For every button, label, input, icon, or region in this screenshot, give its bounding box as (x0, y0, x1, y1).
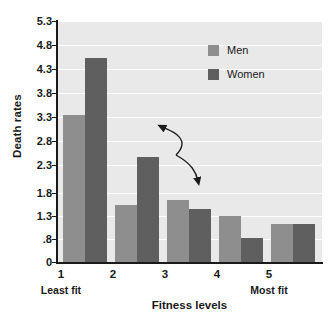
bar-group (113, 157, 161, 262)
plot-area (57, 21, 322, 262)
bar-women (137, 157, 159, 262)
bar-men (271, 224, 293, 262)
legend-item-women: Women (208, 68, 265, 80)
y-tick-label: 2.8 (14, 136, 52, 146)
bar-group (217, 216, 265, 262)
y-tick-label: 4.3 (14, 64, 52, 74)
y-tick-label: 3.8 (14, 88, 52, 98)
y-tick-label: 4.8 (14, 40, 52, 50)
x-tick-label: 5 (239, 268, 299, 280)
legend-item-men: Men (208, 44, 265, 56)
y-tick-label: 5.3 (14, 16, 52, 26)
bar-group (61, 58, 109, 262)
x-axis-note-least-fit: Least fit (21, 284, 101, 296)
bar-men (115, 205, 137, 262)
legend-label: Men (227, 44, 248, 56)
bar-group (269, 224, 317, 262)
gridline (57, 45, 322, 46)
x-axis-note-most-fit: Most fit (229, 284, 309, 296)
bar-women (189, 209, 211, 262)
bar-men (167, 200, 189, 262)
x-tick-label: 4 (187, 268, 247, 280)
bar-women (85, 58, 107, 262)
y-tick-label: .8 (14, 234, 52, 244)
legend-swatch-icon (208, 45, 219, 56)
x-tick-label: 3 (135, 268, 195, 280)
x-axis-title: Fitness levels (57, 299, 322, 311)
legend-swatch-icon (208, 69, 219, 80)
bar-chart: Death rates 5.3 4.8 4.3 3.8 3.3 2.8 2.3 … (0, 0, 333, 317)
bar-men (63, 115, 85, 262)
y-tick-label: 3.3 (14, 112, 52, 122)
y-tick-label: 1.3 (14, 211, 52, 221)
y-axis-line (56, 20, 58, 263)
y-tick-label: 2.3 (14, 160, 52, 170)
y-tick-label: 1.8 (14, 188, 52, 198)
x-axis-line (56, 262, 323, 264)
bar-men (219, 216, 241, 262)
bar-group (165, 200, 213, 262)
gridline (57, 21, 322, 22)
bar-women (241, 238, 263, 262)
legend-label: Women (227, 68, 265, 80)
y-tick-label: 0 (14, 257, 52, 267)
bar-women (293, 224, 315, 262)
x-tick-label: 1 (31, 268, 91, 280)
x-tick-label: 2 (83, 268, 143, 280)
legend: Men Women (208, 44, 265, 92)
